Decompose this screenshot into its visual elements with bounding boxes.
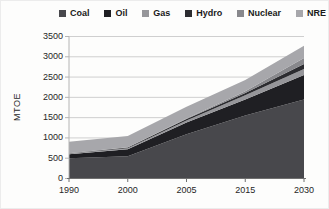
y-tick-label: 500 <box>29 154 63 163</box>
y-tick-label: 0 <box>29 174 63 183</box>
x-tick-label: 1990 <box>49 186 89 195</box>
y-tick-label: 2000 <box>29 93 63 102</box>
energy-demand-stacked-area-chart: CoalOilGasHydroNuclearNRE MTOE 050010001… <box>0 0 329 209</box>
y-axis-label: MTOE <box>12 93 22 121</box>
y-tick-label: 1000 <box>29 133 63 142</box>
x-tick-label: 2015 <box>225 186 265 195</box>
x-tick-label: 2005 <box>167 186 207 195</box>
y-tick-label: 3000 <box>29 52 63 61</box>
y-tick-label: 3500 <box>29 32 63 41</box>
y-tick-label: 2500 <box>29 73 63 82</box>
y-tick-label: 1500 <box>29 113 63 122</box>
x-tick-label: 2030 <box>284 186 324 195</box>
x-tick-label: 2000 <box>108 186 148 195</box>
